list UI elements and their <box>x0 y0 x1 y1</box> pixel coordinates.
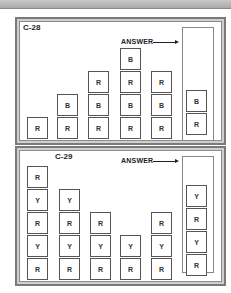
block-cell: Y <box>59 235 80 257</box>
block-cell: Y <box>27 235 48 257</box>
block-cell: R <box>90 258 111 280</box>
block-cell: R <box>57 117 78 139</box>
arrow-icon <box>153 42 176 43</box>
answer-cell: Y <box>186 185 207 207</box>
answer-cell: R <box>186 208 207 230</box>
block-cell: Y <box>151 235 172 257</box>
block-cell: R <box>151 258 172 280</box>
arrow-icon <box>153 161 176 162</box>
block-cell: R <box>27 117 48 139</box>
puzzle-label: C-29 <box>55 152 72 161</box>
block-cell: R <box>27 258 48 280</box>
block-cell: R <box>90 212 111 234</box>
puzzle-panel-c28: C-28 ANSWER RRBRBRRBRBRBRRB <box>15 17 226 145</box>
block-cell: Y <box>90 235 111 257</box>
block-cell: R <box>120 258 141 280</box>
puzzle-panel-c29: C-29 ANSWER RYRYRRYRYRYRRYRYRRYRY <box>15 146 226 286</box>
block-cell: R <box>120 71 141 93</box>
answer-label: ANSWER <box>121 157 153 164</box>
block-cell: B <box>88 94 109 116</box>
block-cell: B <box>120 48 141 70</box>
block-cell: R <box>120 117 141 139</box>
answer-cell: Y <box>186 231 207 253</box>
block-cell: R <box>59 212 80 234</box>
top-band <box>0 0 231 9</box>
puzzle-label: C-28 <box>23 23 40 32</box>
block-cell: R <box>88 117 109 139</box>
answer-cell: R <box>186 113 207 135</box>
block-cell: R <box>151 117 172 139</box>
answer-cell: B <box>186 90 207 112</box>
block-cell: R <box>27 166 48 188</box>
block-cell: B <box>151 94 172 116</box>
block-cell: R <box>59 258 80 280</box>
block-cell: Y <box>27 189 48 211</box>
block-cell: Y <box>59 189 80 211</box>
block-cell: R <box>27 212 48 234</box>
block-cell: R <box>88 71 109 93</box>
block-cell: R <box>151 212 172 234</box>
answer-cell: R <box>186 254 207 276</box>
answer-label: ANSWER <box>121 38 153 45</box>
block-cell: Y <box>120 235 141 257</box>
block-cell: R <box>151 71 172 93</box>
block-cell: B <box>57 94 78 116</box>
block-cell: B <box>120 94 141 116</box>
